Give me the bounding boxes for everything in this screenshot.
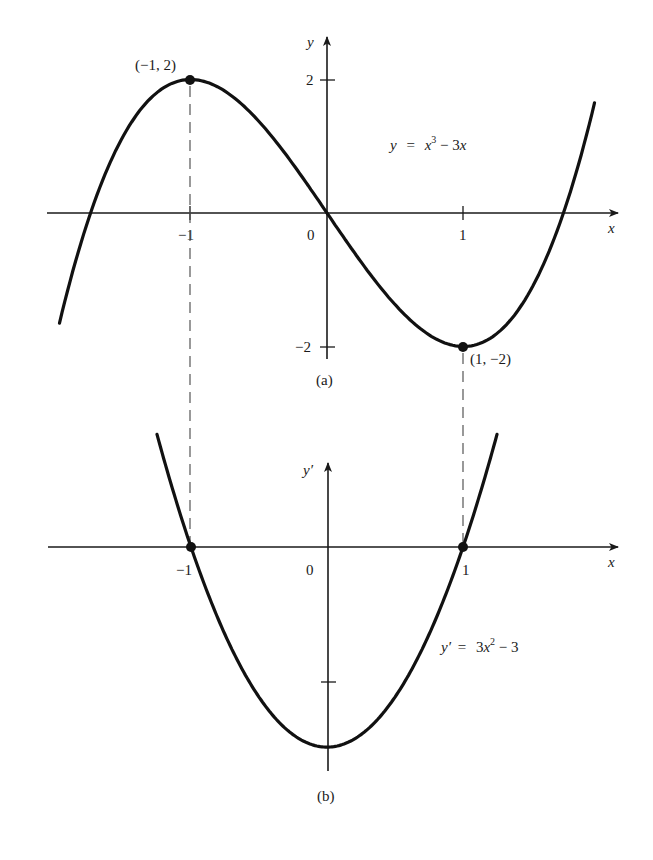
x-axis-label-b: x: [607, 554, 615, 570]
tick-label-x-0-a: 0: [307, 227, 315, 243]
max-point-label: (−1, 2): [135, 57, 176, 74]
x-axis-label-a: x: [607, 220, 615, 236]
zero-point-neg1: [186, 542, 196, 552]
equation-b: y′ = 3x2 − 3: [439, 636, 519, 655]
tick-label-x-neg1-b: −1: [176, 562, 192, 578]
figure-canvas: y x −1 0 1 2 −2 (−1, 2) (1, −2) y = x3 −…: [0, 0, 653, 860]
y-axis-label-a: y: [305, 34, 314, 50]
local-min-point: [458, 342, 468, 352]
panel-a: y x −1 0 1 2 −2 (−1, 2) (1, −2) y = x3 −…: [47, 34, 618, 389]
equation-a: y = x3 − 3x: [388, 134, 467, 153]
panel-b: y′ x −1 0 1 y′ = 3x2 − 3 (b): [48, 434, 618, 805]
tick-label-x-1-a: 1: [459, 227, 467, 243]
min-point-label: (1, −2): [470, 351, 511, 368]
tick-label-y-neg2-a: −2: [295, 339, 311, 355]
tick-label-x-1-b: 1: [462, 562, 470, 578]
panel-caption-a: (a): [316, 372, 333, 389]
parabola-curve: [157, 434, 497, 747]
local-max-point: [185, 75, 195, 85]
panel-caption-b: (b): [317, 788, 335, 805]
zero-point-1: [458, 542, 468, 552]
tick-label-y-2-a: 2: [306, 72, 314, 88]
y-axis-label-b: y′: [301, 462, 314, 478]
tick-label-x-neg1-a: −1: [178, 227, 194, 243]
tick-label-x-0-b: 0: [306, 562, 314, 578]
